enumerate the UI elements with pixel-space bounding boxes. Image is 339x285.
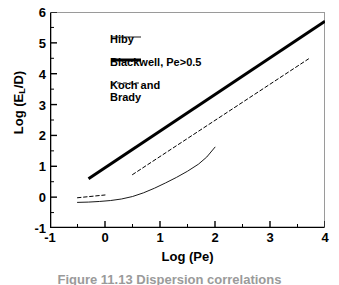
y-tick-label: 1 xyxy=(26,160,46,173)
y-tick-label: 3 xyxy=(26,98,46,111)
figure-container: Log (EL/D) -10123456 -101234 Log (Pe) Hi… xyxy=(0,0,339,285)
x-axis-tick-labels: -101234 xyxy=(50,231,325,249)
y-tick-label: 2 xyxy=(26,129,46,142)
y-tick-label: 0 xyxy=(26,191,46,204)
x-tick-label: 4 xyxy=(313,231,337,244)
figure-caption: Figure 11.13 Dispersion correlations xyxy=(0,272,339,285)
dashed-swatch xyxy=(110,72,142,79)
thick-solid-swatch xyxy=(110,49,142,56)
x-tick-label: 0 xyxy=(93,231,117,244)
series-line-2 xyxy=(78,195,106,198)
y-tick-label: 6 xyxy=(26,6,46,19)
legend-entry: Hiby xyxy=(110,26,260,45)
x-tick-label: 2 xyxy=(203,231,227,244)
x-tick-label: 3 xyxy=(258,231,282,244)
y-axis-tick-labels: -10123456 xyxy=(22,12,46,228)
x-axis-title: Log (Pe) xyxy=(50,249,325,264)
thin-solid-swatch xyxy=(110,26,142,33)
chart-legend: HibyBlackwell, Pe>0.5Koch and Brady xyxy=(110,26,260,107)
x-tick-label: -1 xyxy=(38,231,62,244)
legend-entry: Koch and Brady xyxy=(110,72,260,103)
series-line-0 xyxy=(78,147,216,202)
legend-entry: Blackwell, Pe>0.5 xyxy=(110,49,260,68)
y-tick-label: 4 xyxy=(26,67,46,80)
x-tick-label: 1 xyxy=(148,231,172,244)
y-tick-label: 5 xyxy=(26,36,46,49)
